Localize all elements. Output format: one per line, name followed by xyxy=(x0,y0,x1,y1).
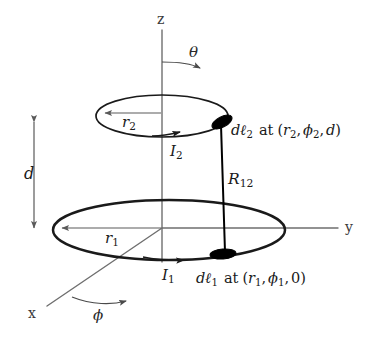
lower-element-coord-phi: ϕ xyxy=(268,270,278,286)
upper-element-subscript: 2 xyxy=(247,129,253,140)
phi-angle-label: ϕ xyxy=(93,308,103,323)
upper-current-arrow xyxy=(152,132,180,136)
upper-current-subscript: 2 xyxy=(176,149,183,161)
lower-current-subscript: 1 xyxy=(168,273,175,285)
lower-element-at-word: at xyxy=(218,270,242,286)
lower-radius-label: r1 xyxy=(105,231,119,247)
lower-element-d: d xyxy=(196,270,205,286)
x-axis-label: x xyxy=(28,306,36,320)
r12-subscript: 12 xyxy=(240,177,254,190)
r12-distance-label: R12 xyxy=(228,172,253,190)
lower-element-coord-z: 0 xyxy=(291,270,300,286)
upper-radius-subscript: 2 xyxy=(129,120,136,132)
upper-current-label: I2 xyxy=(170,144,183,160)
upper-element-annotation: dℓ2at(r2,ϕ2,d) xyxy=(231,123,341,140)
lower-current-element-marker xyxy=(210,248,237,260)
lower-current-loop xyxy=(53,200,285,260)
lower-element-paren-close: ) xyxy=(300,270,306,286)
upper-element-coord-r-sub: 2 xyxy=(290,129,296,140)
phi-angle-arc xyxy=(72,297,126,304)
upper-element-paren-close: ) xyxy=(335,122,341,138)
upper-element-coord-r: r xyxy=(283,122,290,138)
lower-element-annotation: dℓ1at(r1,ϕ1,0) xyxy=(196,271,306,288)
theta-angle-label: θ xyxy=(189,45,198,60)
z-axis-label: z xyxy=(157,12,164,26)
lower-element-subscript: 1 xyxy=(212,277,218,288)
y-axis-label: y xyxy=(345,220,353,234)
lower-element-coord-r-sub: 1 xyxy=(255,277,261,288)
upper-element-coord-phi: ϕ xyxy=(303,122,313,138)
r12-connector-line xyxy=(221,125,225,252)
lower-element-coord-r: r xyxy=(248,270,255,286)
upper-element-coord-z: d xyxy=(326,122,335,138)
upper-radius-label: r2 xyxy=(122,115,136,131)
physics-diagram-figure: z y x θ ϕ d r2 r1 R12 I2 I1 dℓ2at(r2,ϕ2,… xyxy=(0,0,379,340)
upper-element-at-word: at xyxy=(253,122,277,138)
lower-current-label: I1 xyxy=(162,268,175,284)
separation-distance-label: d xyxy=(24,166,34,182)
lower-radius-subscript: 1 xyxy=(112,236,119,248)
r12-symbol: R xyxy=(228,170,240,188)
upper-element-d: d xyxy=(231,122,240,138)
theta-angle-arc xyxy=(162,62,200,68)
